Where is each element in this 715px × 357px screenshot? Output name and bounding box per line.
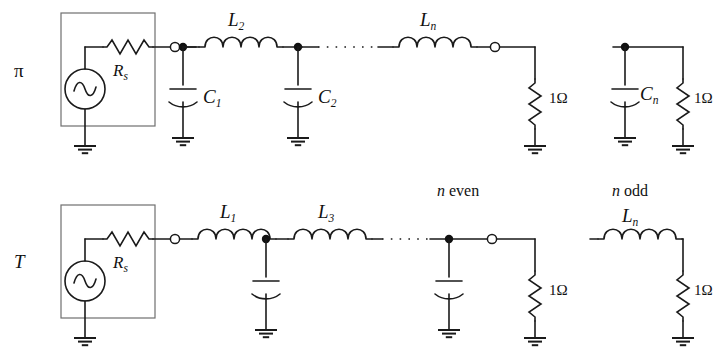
t-row-label: T xyxy=(14,251,26,272)
t-ac-source-icon xyxy=(65,239,105,338)
n-odd-annotation: n odd xyxy=(612,182,648,199)
t-variant-ln-label: Ln xyxy=(621,205,639,228)
t-capacitor-2-ground-icon xyxy=(438,330,460,337)
t-variant-inductor-ln xyxy=(598,229,682,239)
pi-inductor-ln xyxy=(393,37,477,47)
pi-input-terminal-icon xyxy=(170,42,179,51)
t-l1-label: L1 xyxy=(219,201,236,224)
pi-c1-label: C1 xyxy=(203,86,221,109)
pi-capacitor-c1 xyxy=(169,89,197,138)
pi-load-ground-icon xyxy=(524,146,546,153)
t-inductor-l3 xyxy=(288,229,372,239)
pi-variant-load-label: 1Ω xyxy=(694,90,713,106)
pi-load-label: 1Ω xyxy=(549,90,568,106)
pi-inductor-l2 xyxy=(199,37,283,47)
pi-variant-capacitor-cn xyxy=(611,89,639,138)
pi-ac-source-icon xyxy=(65,47,105,146)
t-source-resistor xyxy=(103,232,170,246)
t-capacitor-1-ground-icon xyxy=(255,330,277,337)
t-input-terminal-icon xyxy=(170,234,179,243)
pi-capacitor-c2 xyxy=(284,89,312,138)
t-variant-load-label: 1Ω xyxy=(694,282,713,298)
t-variant-load-ground-icon xyxy=(672,338,694,345)
pi-variant-load-ground-icon xyxy=(672,146,694,153)
pi-output-terminal-icon xyxy=(490,42,499,51)
schematic-canvas: Rs C1 L2 xyxy=(0,0,715,357)
t-rs-label: Rs xyxy=(112,253,128,274)
pi-row-label: π xyxy=(14,60,24,81)
t-source-box xyxy=(61,205,155,318)
t-variant-load-resistor xyxy=(677,271,689,338)
pi-variant-load-resistor xyxy=(677,79,689,146)
t-l3-label: L3 xyxy=(317,201,335,224)
pi-c2-label: C2 xyxy=(318,86,337,109)
n-even-annotation: n even xyxy=(437,182,479,199)
pi-rs-label: Rs xyxy=(112,61,128,82)
t-output-terminal-icon xyxy=(487,234,496,243)
pi-source-resistor xyxy=(103,40,170,54)
pi-row-group: Rs C1 L2 xyxy=(14,9,713,153)
t-load-resistor xyxy=(529,271,541,338)
pi-variant-cn-ground-icon xyxy=(614,138,636,145)
pi-load-resistor xyxy=(529,79,541,146)
pi-l2-label: L2 xyxy=(227,9,245,32)
t-capacitor-2 xyxy=(435,281,463,330)
t-source-ground-icon xyxy=(74,338,96,345)
t-load-ground-icon xyxy=(524,338,546,345)
pi-ln-label: Ln xyxy=(419,9,437,32)
circuit-figure: Rs C1 L2 xyxy=(0,0,715,357)
pi-source-box xyxy=(61,13,155,126)
pi-c1-ground-icon xyxy=(172,138,194,145)
pi-c2-ground-icon xyxy=(287,138,309,145)
t-capacitor-1 xyxy=(252,281,280,330)
t-load-label: 1Ω xyxy=(549,282,568,298)
pi-cn-label: Cn xyxy=(640,83,659,106)
pi-source-ground-icon xyxy=(74,146,96,153)
t-row-group: n even n odd Rs xyxy=(14,182,713,345)
